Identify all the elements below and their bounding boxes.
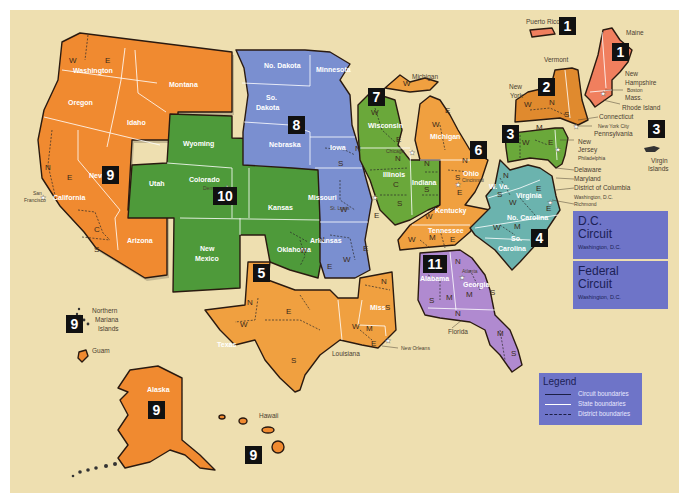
circuit-badge: 9 [66, 315, 83, 333]
district-label: E [374, 211, 379, 220]
svg-text:3: 3 [653, 121, 661, 137]
district-label: E [105, 56, 110, 65]
place-label: Hampshire [625, 79, 657, 87]
place-label: Maine [626, 29, 644, 36]
district-label: E [396, 135, 401, 144]
legend: Legend Circuit boundaries State boundari… [539, 373, 642, 425]
state-label: No. Carolina [507, 214, 548, 221]
circuit-badge: 2 [538, 78, 555, 96]
city-label: Cincinnati [462, 177, 484, 183]
place-label: Virgin [651, 157, 668, 165]
city-label: Francisco [24, 197, 46, 203]
place-label: Hawaii [259, 412, 279, 419]
svg-text:11: 11 [428, 256, 443, 272]
district-label: N [462, 156, 468, 165]
circuit-badge: 7 [368, 88, 385, 106]
circuit-2-region [515, 68, 588, 125]
city-label: Philadelphia [578, 155, 605, 161]
district-label: W [509, 198, 517, 207]
district-label: M [536, 123, 543, 132]
city-label: Atlanta [462, 268, 478, 274]
dc-circuit-title-2: Circuit [578, 228, 612, 241]
aleutian-islands [72, 462, 117, 477]
city-label: Chicago [386, 148, 405, 154]
svg-text:6: 6 [475, 142, 483, 158]
district-label: N [45, 163, 51, 172]
svg-text:7: 7 [373, 89, 381, 105]
star-icon: ★ [385, 337, 391, 344]
circuit-badge: 9 [148, 401, 165, 419]
state-label: Utah [149, 180, 165, 187]
place-label: New [578, 138, 591, 145]
city-label: Washington, D.C. [574, 194, 613, 200]
svg-text:9: 9 [71, 316, 79, 332]
district-label: N [395, 154, 401, 163]
svg-text:5: 5 [258, 265, 266, 281]
district-label: E [536, 184, 541, 193]
district-label: E [371, 339, 376, 348]
place-label: Louisiana [332, 350, 360, 357]
district-label: W [408, 235, 416, 244]
state-label: Wyoming [183, 140, 214, 148]
solid-white-line-icon [545, 404, 571, 405]
state-label: Georgia [463, 281, 490, 289]
state-label: Minnesota [316, 66, 351, 73]
city-label: Richmond [574, 201, 597, 207]
district-label: S [490, 288, 495, 297]
svg-text:9: 9 [107, 167, 115, 183]
place-label: Vermont [544, 56, 568, 63]
circuit-badge: 11 [423, 255, 447, 273]
city-label: New York City [598, 123, 630, 129]
state-label: Kentucky [435, 207, 467, 215]
district-label: M [497, 329, 504, 338]
district-label: E [363, 244, 368, 253]
district-label: N [319, 235, 325, 244]
district-label: W [425, 212, 433, 221]
state-label: Kansas [268, 204, 293, 211]
state-label: Ohio [463, 170, 479, 177]
virgin-islands [644, 146, 660, 152]
district-label: C [94, 225, 100, 234]
district-label: W [432, 120, 440, 129]
city-label: New Orleans [401, 345, 430, 351]
place-label: Mariana [95, 316, 119, 323]
star-icon: ★ [372, 194, 378, 201]
state-label: Alabama [420, 275, 449, 282]
svg-text:1: 1 [617, 44, 625, 60]
place-label: Northern [92, 307, 118, 314]
district-label: S [291, 356, 296, 365]
state-label: Oregon [68, 99, 93, 107]
place-label: Florida [448, 328, 468, 335]
state-label: Montana [169, 81, 198, 88]
district-label: M [514, 222, 521, 231]
place-label: Rhode Island [622, 104, 661, 111]
place-label: New [509, 83, 522, 90]
place-label: Islands [98, 325, 119, 332]
svg-text:2: 2 [543, 79, 551, 95]
city-label: St. Louis [330, 205, 350, 211]
state-label: Virginia [516, 192, 542, 200]
district-label: E [445, 106, 450, 115]
district-label: S [424, 185, 429, 194]
circuit-badge: 3 [502, 125, 519, 143]
district-label: M [466, 290, 473, 299]
state-label: Carolina [498, 245, 526, 252]
state-label: Iowa [330, 144, 346, 151]
circuit-badge: 1 [559, 17, 576, 35]
place-label: Delaware [574, 166, 602, 173]
state-label: Arkansas [310, 237, 342, 244]
district-label: N [455, 309, 461, 318]
circuit-badge: 9 [102, 166, 119, 184]
state-label: New [200, 245, 215, 252]
state-label: Illinois [383, 171, 405, 178]
district-label: W [371, 108, 379, 117]
district-label: E [546, 204, 551, 213]
district-label: S [511, 349, 516, 358]
district-label: S [564, 110, 569, 119]
district-label: S [397, 199, 402, 208]
federal-circuit-title-2: Circuit [578, 278, 612, 291]
district-label: N [355, 144, 361, 153]
star-icon: ★ [409, 149, 415, 156]
state-label: No. Dakota [264, 62, 301, 69]
district-label: W [522, 138, 530, 147]
